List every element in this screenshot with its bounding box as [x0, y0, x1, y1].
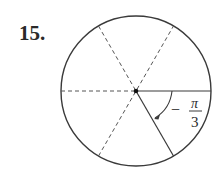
terminal-side	[136, 91, 174, 156]
center-point	[134, 89, 139, 94]
angle-label-numerator: π	[191, 96, 199, 111]
angle-label-denominator: 3	[191, 114, 199, 130]
angle-diagram: − π 3	[0, 0, 212, 173]
angle-label-sign: −	[171, 101, 180, 118]
dashed-diameter-120	[99, 26, 137, 91]
angle-arc	[155, 91, 172, 118]
arrowhead-icon	[154, 115, 160, 120]
